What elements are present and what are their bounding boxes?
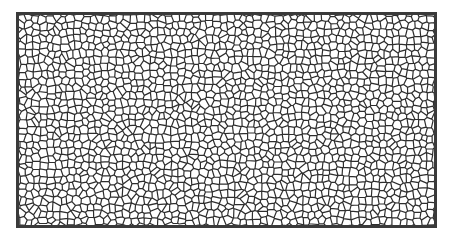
pattern-frame xyxy=(16,12,437,228)
voronoi-cells xyxy=(19,15,434,225)
voronoi-pattern xyxy=(19,15,434,225)
